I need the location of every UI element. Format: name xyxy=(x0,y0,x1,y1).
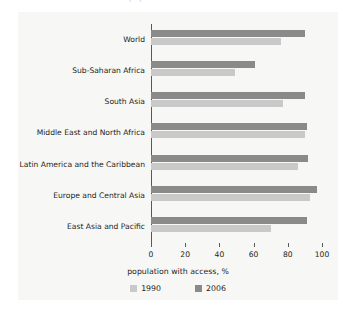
x-axis-tick xyxy=(185,243,186,247)
bar-1990 xyxy=(151,69,235,76)
chart-panel: WorldSub-Saharan AfricaSouth AsiaMiddle … xyxy=(18,12,338,300)
legend-swatch-icon-2006 xyxy=(195,285,202,292)
y-axis-label: Latin America and the Caribbean xyxy=(18,149,151,180)
bar-1990 xyxy=(151,225,271,232)
bar-1990 xyxy=(151,131,305,138)
x-axis-tick xyxy=(254,243,255,247)
x-axis-tick-labels: 020406080100 xyxy=(18,250,338,262)
x-axis-tick-label: 0 xyxy=(149,250,154,259)
chart-figure: population with access WorldSub-Saharan … xyxy=(0,0,354,311)
bar-group xyxy=(151,180,322,211)
bar-1990 xyxy=(151,38,281,45)
bar-1990 xyxy=(151,163,298,170)
x-axis-title: population with access, % xyxy=(18,267,338,276)
bar-2006 xyxy=(151,61,255,68)
x-axis-ticks xyxy=(151,243,322,248)
y-axis-label: Sub-Saharan Africa xyxy=(18,55,151,86)
bar-group xyxy=(151,86,322,117)
legend-swatch-icon-1990 xyxy=(130,285,137,292)
x-axis-tick-label: 40 xyxy=(215,250,225,259)
bar-2006 xyxy=(151,217,307,224)
x-axis-tick-label: 100 xyxy=(315,250,330,259)
x-axis-tick-label: 20 xyxy=(180,250,190,259)
y-axis-label: East Asia and Pacific xyxy=(18,211,151,242)
bar-rows xyxy=(151,24,322,242)
bar-1990 xyxy=(151,100,283,107)
x-axis-tick xyxy=(219,243,220,247)
y-axis-labels: WorldSub-Saharan AfricaSouth AsiaMiddle … xyxy=(18,24,151,242)
bar-group xyxy=(151,24,322,55)
bar-1990 xyxy=(151,194,310,201)
bar-group xyxy=(151,211,322,242)
bar-2006 xyxy=(151,30,305,37)
bar-group xyxy=(151,117,322,148)
chart-legend: 1990 2006 xyxy=(18,284,338,293)
plot-area xyxy=(151,24,322,242)
x-axis-tick-label: 60 xyxy=(249,250,259,259)
bar-group xyxy=(151,55,322,86)
bar-2006 xyxy=(151,123,307,130)
x-axis-tick xyxy=(151,243,152,247)
legend-label-1990: 1990 xyxy=(141,284,161,293)
legend-label-2006: 2006 xyxy=(206,284,226,293)
y-axis-label: Middle East and North Africa xyxy=(18,117,151,148)
y-axis-label: World xyxy=(18,24,151,55)
bar-2006 xyxy=(151,186,317,193)
bar-2006 xyxy=(151,92,305,99)
bar-2006 xyxy=(151,155,308,162)
legend-item-1990: 1990 xyxy=(130,284,161,293)
x-axis-tick xyxy=(288,243,289,247)
x-axis-tick xyxy=(322,243,323,247)
x-axis-tick-label: 80 xyxy=(283,250,293,259)
y-axis-label: Europe and Central Asia xyxy=(18,180,151,211)
clipped-title-artifact: population with access xyxy=(0,0,354,3)
y-axis-label: South Asia xyxy=(18,86,151,117)
legend-item-2006: 2006 xyxy=(195,284,226,293)
bar-group xyxy=(151,149,322,180)
